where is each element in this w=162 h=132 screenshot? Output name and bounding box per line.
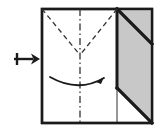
origami-diagram: [0, 0, 162, 132]
origami-figure-svg: [0, 0, 162, 132]
